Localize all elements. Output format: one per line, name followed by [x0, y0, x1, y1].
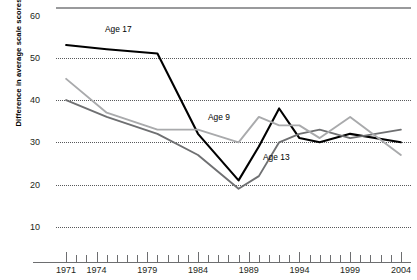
- series-label-age-17: Age 17: [105, 24, 132, 34]
- x-tick-1985: [208, 255, 209, 262]
- series-label-age-9: Age 9: [208, 112, 230, 122]
- x-tick-1988: [239, 255, 240, 262]
- x-tick-1981: [168, 255, 169, 262]
- x-tick-1975: [107, 255, 108, 262]
- x-tick-2003: [391, 255, 392, 262]
- x-tick-1994: [299, 252, 300, 262]
- x-tick-1992: [279, 255, 280, 262]
- x-tick-2004: [401, 252, 402, 262]
- x-tick-1987: [228, 255, 229, 262]
- x-tick-2002: [381, 255, 382, 262]
- x-tick-1996: [320, 255, 321, 262]
- x-tick-label-1994: 1994: [289, 265, 309, 275]
- x-tick-1980: [157, 255, 158, 262]
- series-label-age-13: Age 13: [263, 152, 290, 162]
- chart-container: Difference in average scale scores 60504…: [0, 0, 417, 280]
- x-tick-1971: [66, 252, 67, 262]
- x-tick-1990: [259, 255, 260, 262]
- x-tick-2001: [370, 255, 371, 262]
- x-tick-1976: [117, 255, 118, 262]
- x-tick-label-1974: 1974: [87, 265, 107, 275]
- plot-area: [0, 0, 417, 280]
- x-tick-label-1999: 1999: [340, 265, 360, 275]
- x-tick-1974: [97, 252, 98, 262]
- x-tick-label-1984: 1984: [188, 265, 208, 275]
- x-tick-1993: [289, 255, 290, 262]
- x-tick-1973: [86, 255, 87, 262]
- x-tick-1979: [147, 252, 148, 262]
- x-tick-1997: [330, 255, 331, 262]
- x-tick-1978: [137, 255, 138, 262]
- x-tick-1995: [310, 255, 311, 262]
- x-tick-1986: [218, 255, 219, 262]
- x-tick-label-1989: 1989: [239, 265, 259, 275]
- x-tick-1983: [188, 255, 189, 262]
- x-tick-1989: [249, 252, 250, 262]
- x-axis-line: [33, 262, 411, 263]
- x-tick-label-1979: 1979: [137, 265, 157, 275]
- x-tick-2000: [360, 255, 361, 262]
- series-line-age-17: [66, 45, 401, 180]
- x-tick-1998: [340, 255, 341, 262]
- x-tick-1991: [269, 255, 270, 262]
- x-tick-1999: [350, 252, 351, 262]
- x-tick-1982: [178, 255, 179, 262]
- x-tick-1972: [76, 255, 77, 262]
- x-tick-label-1971: 1971: [56, 265, 76, 275]
- series-line-age-9: [66, 79, 401, 155]
- x-tick-1977: [127, 255, 128, 262]
- x-tick-1984: [198, 252, 199, 262]
- x-tick-label-2004: 2004: [391, 265, 411, 275]
